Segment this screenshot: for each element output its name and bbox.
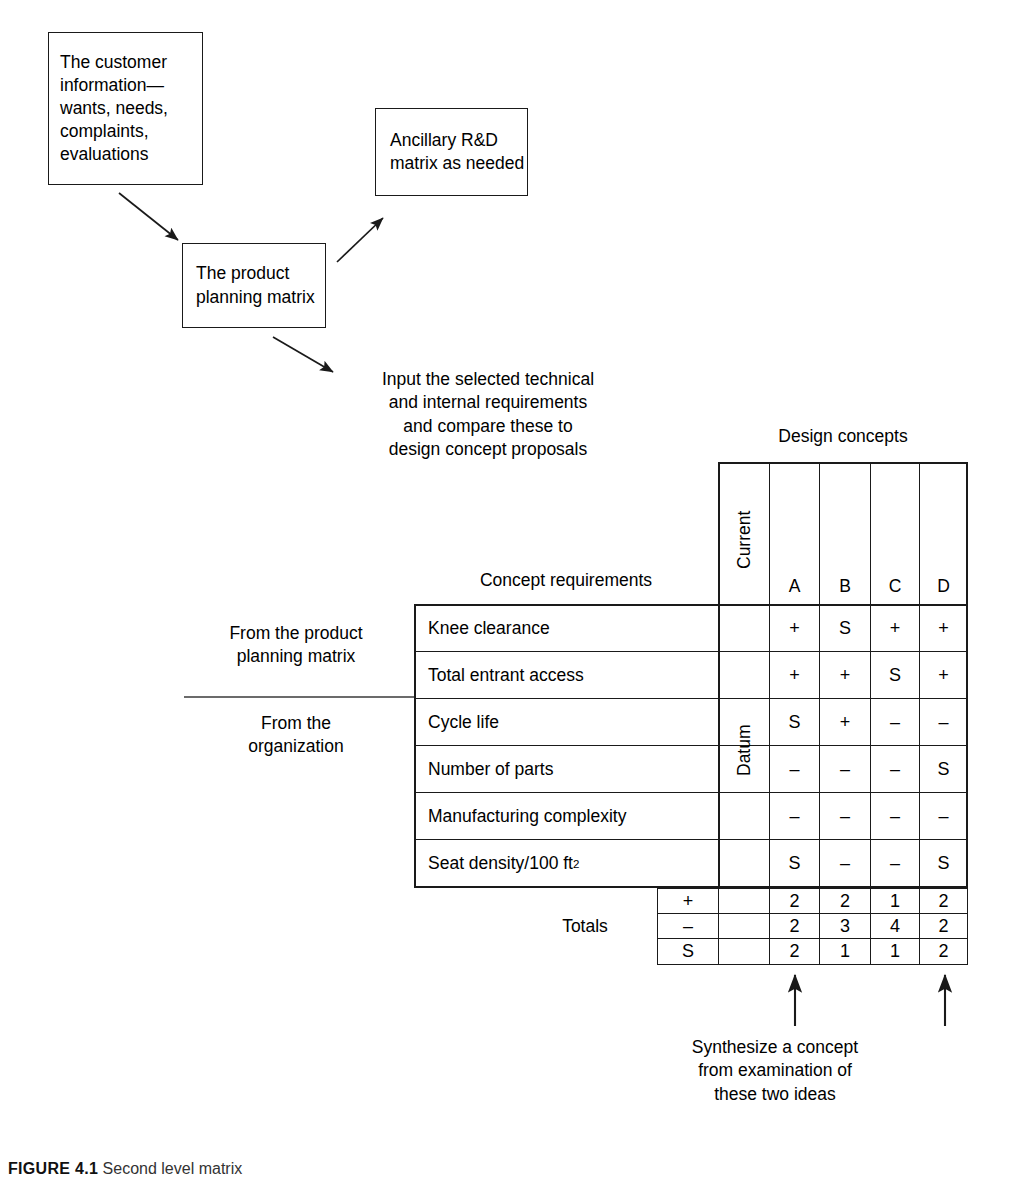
totals-s-d: 2 xyxy=(920,939,967,964)
totals-plus-b: 2 xyxy=(820,889,870,914)
concept-column-c: C xyxy=(871,570,919,602)
matrix-header-top-border xyxy=(718,462,968,464)
requirement-row-2: Total entrant access xyxy=(428,652,714,699)
rating-r3-c: – xyxy=(871,699,919,746)
figure-canvas: The customer information— wants, needs, … xyxy=(0,0,1021,1178)
customer-information-box: The customer information— wants, needs, … xyxy=(48,32,203,185)
requirement-row-6: Seat density/100 ft2 xyxy=(428,840,714,887)
totals-divider-sign xyxy=(718,888,719,965)
totals-s-c: 1 xyxy=(871,939,919,964)
figure-caption: FIGURE 4.1 Second level matrix xyxy=(8,1160,242,1178)
totals-minus-b: 3 xyxy=(820,914,870,939)
totals-sign-plus: + xyxy=(658,889,718,914)
totals-s-b: 1 xyxy=(820,939,870,964)
totals-plus-c: 1 xyxy=(871,889,919,914)
datum-label: Datum xyxy=(719,690,769,810)
rating-r6-c: – xyxy=(871,840,919,887)
rating-r2-a: + xyxy=(770,652,819,699)
rating-r1-d: + xyxy=(920,605,967,652)
rating-r2-d: + xyxy=(920,652,967,699)
ancillary-rd-matrix-box: Ancillary R&D matrix as needed xyxy=(375,108,528,196)
rating-r6-a: S xyxy=(770,840,819,887)
rating-r3-b: + xyxy=(820,699,870,746)
figure-caption-text: Second level matrix xyxy=(103,1160,243,1177)
totals-label: Totals xyxy=(520,913,650,939)
arrow-planning-to-ancillary xyxy=(337,218,383,262)
concept-column-b: B xyxy=(820,570,870,602)
requirement-row-6-text: Seat density/100 ft xyxy=(428,853,573,874)
rating-r5-d: – xyxy=(920,793,967,840)
rating-r3-d: – xyxy=(920,699,967,746)
rating-r3-a: S xyxy=(770,699,819,746)
annotation-synthesize-concept: Synthesize a concept from examination of… xyxy=(610,1036,940,1106)
rating-r5-a: – xyxy=(770,793,819,840)
arrow-customer-to-planning xyxy=(119,193,178,240)
rating-r4-b: – xyxy=(820,746,870,793)
rating-r5-b: – xyxy=(820,793,870,840)
design-concepts-label: Design concepts xyxy=(718,426,968,447)
rating-r2-c: S xyxy=(871,652,919,699)
rating-r1-a: + xyxy=(770,605,819,652)
totals-minus-c: 4 xyxy=(871,914,919,939)
requirement-row-6-superscript: 2 xyxy=(573,858,579,870)
rating-r6-d: S xyxy=(920,840,967,887)
arrow-planning-to-input xyxy=(273,337,333,372)
annotation-from-organization: From the organization xyxy=(180,712,412,759)
rating-r4-d: S xyxy=(920,746,967,793)
concept-column-a: A xyxy=(770,570,819,602)
current-column-label: Current xyxy=(719,480,769,600)
figure-caption-number: FIGURE 4.1 xyxy=(8,1160,98,1177)
totals-minus-d: 2 xyxy=(920,914,967,939)
rating-r5-c: – xyxy=(871,793,919,840)
product-planning-matrix-box: The product planning matrix xyxy=(182,243,326,328)
customer-information-text: The customer information— wants, needs, … xyxy=(60,51,202,166)
rating-r2-b: + xyxy=(820,652,870,699)
totals-sign-s: S xyxy=(658,939,718,964)
ancillary-rd-matrix-text: Ancillary R&D matrix as needed xyxy=(390,129,527,175)
rating-r6-b: – xyxy=(820,840,870,887)
totals-plus-d: 2 xyxy=(920,889,967,914)
concept-requirements-label: Concept requirements xyxy=(414,570,718,591)
requirement-row-1: Knee clearance xyxy=(428,605,714,652)
concept-column-d: D xyxy=(920,570,967,602)
totals-minus-a: 2 xyxy=(770,914,819,939)
totals-sign-minus: – xyxy=(658,914,718,939)
rating-r1-b: S xyxy=(820,605,870,652)
product-planning-matrix-text: The product planning matrix xyxy=(196,262,325,308)
rating-r1-c: + xyxy=(871,605,919,652)
totals-s-a: 2 xyxy=(770,939,819,964)
rating-r4-c: – xyxy=(871,746,919,793)
annotation-from-product-planning: From the product planning matrix xyxy=(180,622,412,669)
rating-r4-a: – xyxy=(770,746,819,793)
requirement-row-4: Number of parts xyxy=(428,746,714,793)
totals-plus-a: 2 xyxy=(770,889,819,914)
requirement-row-3: Cycle life xyxy=(428,699,714,746)
requirement-row-5: Manufacturing complexity xyxy=(428,793,714,840)
input-instruction-text: Input the selected technical and interna… xyxy=(328,368,648,462)
